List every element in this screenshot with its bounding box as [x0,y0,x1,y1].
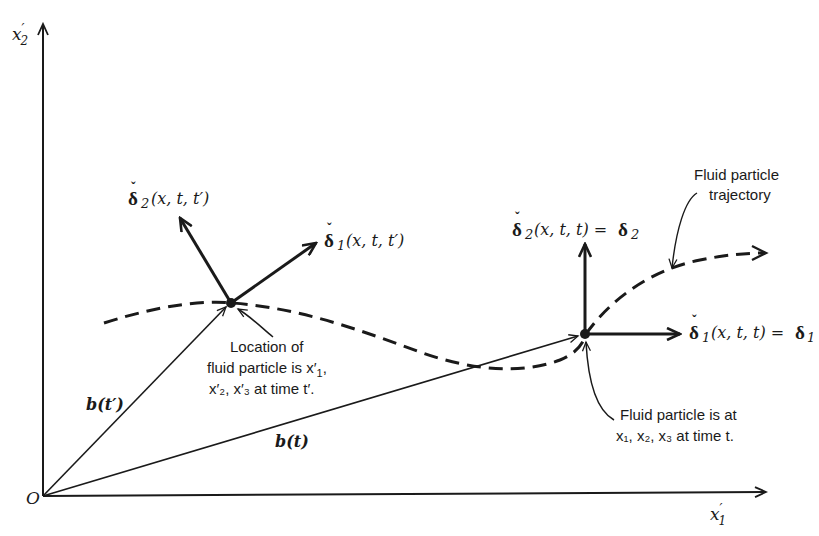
vector-delta2-t-prime [180,218,231,303]
trajectory-curve [104,253,765,369]
y-axis-label: x′2 [12,21,28,48]
svg-text:δ: δ [324,230,334,251]
origin-label: O [26,488,40,508]
svg-text:2: 2 [524,227,533,242]
fluid-particle-diagram: x′2 x′1 O b(t′) b(t) ˇ δ 2 (x, t, t′) ˇ … [0,0,819,536]
svg-text:Fluid particle: Fluid particle [694,166,779,183]
svg-text:(x, t, t) =: (x, t, t) = [711,323,784,342]
svg-text:(x, t, t) =: (x, t, t) = [534,220,607,239]
label-b-t-prime: b(t′) [86,395,124,414]
svg-text:x₁, x₂, x₃ at time t.: x₁, x₂, x₃ at time t. [616,427,734,444]
label-delta2-t-prime: ˇ δ 2 (x, t, t′) [128,180,209,211]
svg-text:(x, t, t′): (x, t, t′) [151,189,209,208]
vector-b-t-prime [43,307,226,496]
x-axis-label: x′1 [710,501,726,528]
svg-text:δ: δ [128,188,138,209]
x-axis [43,492,766,496]
pointer-to-trajectory [672,193,697,268]
svg-text:1: 1 [807,330,815,345]
svg-text:δ: δ [795,322,805,343]
svg-text:fluid particle is x′1,: fluid particle is x′1, [207,359,327,379]
caption-t-prime: Location of fluid particle is x′1, x′₂, … [207,338,327,397]
label-delta1-t-prime: ˇ δ 1 (x, t, t′) [324,221,404,253]
svg-text:Location of: Location of [230,338,304,355]
svg-text:2: 2 [630,227,639,242]
label-delta1-t: ˇ δ 1 (x, t, t) = δ 1 [689,313,815,345]
svg-text:2: 2 [140,196,149,211]
svg-text:1: 1 [337,238,345,253]
svg-text:δ: δ [512,219,522,240]
vector-delta1-t-prime [231,243,316,303]
svg-text:δ: δ [618,219,628,240]
label-delta2-t: ˇ δ 2 (x, t, t) = δ 2 [512,210,639,242]
label-b-t: b(t) [275,432,309,451]
svg-text:1: 1 [702,330,710,345]
trajectory-label: Fluid particle trajectory [694,166,779,203]
pointer-to-t-prime [238,309,273,337]
caption-t: Fluid particle is at x₁, x₂, x₃ at time … [616,406,738,444]
svg-text:Fluid particle is at: Fluid particle is at [620,406,738,423]
svg-text:(x, t, t′): (x, t, t′) [346,231,404,250]
svg-text:x′₂, x′₃ at time t′.: x′₂, x′₃ at time t′. [209,380,314,397]
pointer-to-t [586,342,614,420]
svg-text:trajectory: trajectory [709,186,771,203]
svg-text:δ: δ [689,322,699,343]
